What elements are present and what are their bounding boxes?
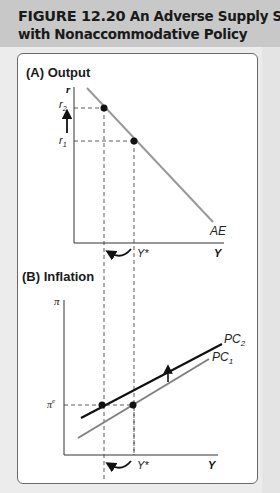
point-pc1-pi-e [130,402,137,409]
ae-label: AE [209,224,227,238]
panel-a-axes [74,87,224,243]
pc2-label: PC2 [224,332,246,348]
pc1-curve [78,359,209,438]
r1-tick-label: r1 [59,134,67,148]
r2-tick-label: r2 [59,98,67,112]
point-pc2-pi-e [99,402,106,409]
panel-b-x-axis-label: Y [208,459,217,471]
economics-diagram: r r2 r1 AE Y Y* π πe PC2 PC1 Y Y* [0,0,280,493]
output-decrease-arrow-a [110,249,131,256]
r-axis-label: r [66,83,71,95]
equilibrium-point-r1 [131,138,138,145]
output-decrease-arrow-b [110,461,131,468]
pi-e-tick-label: πe [47,397,55,410]
pc1-label: PC1 [212,350,233,366]
equilibrium-point-r2 [101,105,108,112]
pi-axis-label: π [54,295,60,307]
panel-b-ystar-label: Y* [137,459,149,471]
panel-a-ystar-label: Y* [137,247,149,259]
panel-a-guides [74,108,134,480]
panel-a-x-axis-label: Y [214,247,223,259]
